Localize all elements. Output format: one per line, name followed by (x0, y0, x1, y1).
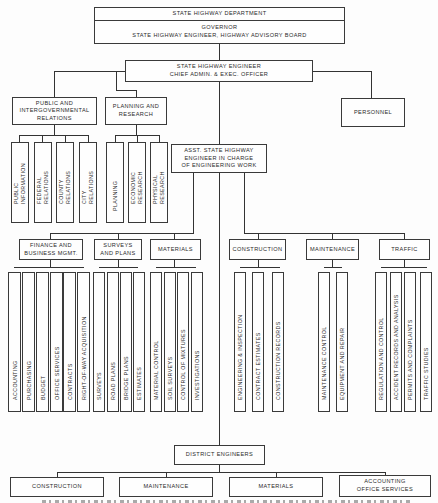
unit-contracts: CONTRACTS (63, 272, 76, 412)
unit-right-of-way: RIGHT-OF-WAY ACQUISITION (77, 272, 90, 412)
unit-city-relations: CITY RELATIONS (79, 142, 97, 223)
unit-label: EQUIPMENT AND REPAIR (339, 328, 346, 401)
connector (244, 233, 405, 234)
personnel-box: PERSONNEL (341, 98, 405, 127)
unit-label: CONTRACTS (66, 364, 73, 401)
unit-accident-records: ACCIDENT RECORDS AND ANALYSIS (390, 272, 402, 412)
unit-label: MATERIAL CONTROL (153, 340, 160, 400)
connector (19, 135, 20, 142)
unit-label: PLANNING (112, 181, 119, 211)
governor-board-box: GOVERNOR STATE HIGHWAY ENGINEER, HIGHWAY… (94, 20, 345, 44)
connector (404, 260, 405, 267)
unit-economic-research: ECONOMIC RESEARCH (128, 142, 146, 223)
connector (324, 267, 342, 268)
connector (156, 267, 196, 268)
state-highway-department-box: STATE HIGHWAY DEPARTMENT (94, 7, 345, 21)
connector (57, 472, 385, 473)
connector (50, 233, 194, 234)
connector (136, 125, 137, 135)
unit-label: ESTIMATES (136, 367, 143, 400)
connector (219, 44, 220, 60)
unit-label: REGULATION AND CONTROL (378, 318, 385, 401)
connector (244, 173, 245, 233)
figure-caption-cutoff (42, 497, 412, 503)
unit-budget: BUDGET (36, 272, 49, 412)
unit-label: ACCOUNTING (11, 361, 18, 401)
unit-public-information: PUBLIC INFORMATION (11, 142, 29, 223)
connector (240, 267, 280, 268)
unit-contract-estimates: CONTRACT ESTIMATES (252, 272, 264, 412)
connector (88, 135, 89, 142)
unit-soil-surveys: SOIL SURVEYS (164, 272, 176, 412)
connector (219, 465, 220, 472)
connector (332, 260, 333, 267)
connector (116, 71, 117, 90)
connector (14, 267, 84, 268)
unit-road-plans: ROAD PLANS (107, 272, 119, 412)
connector (115, 135, 116, 142)
unit-label: MAINTENANCE CONTROL (321, 327, 328, 401)
connector (137, 135, 138, 142)
materials-box: MATERIALS (150, 239, 201, 260)
unit-federal-relations: FEDERAL RELATIONS (34, 142, 52, 223)
connector (99, 267, 138, 268)
unit-label: COUNTY RELATIONS (58, 171, 72, 204)
district-engineers-box: DISTRICT ENGINEERS (174, 445, 265, 465)
maintenance-box: MAINTENANCE (306, 239, 359, 260)
planning-research-box: PLANNING AND RESEARCH (105, 97, 167, 125)
connector (381, 267, 427, 268)
connector (50, 260, 51, 267)
unit-label: TRAFFIC STUDIES (423, 347, 430, 400)
unit-construction-records: CONSTRUCTION RECORDS (272, 272, 284, 412)
connector (54, 71, 125, 72)
unit-label: BRIDGE PLANS (123, 356, 130, 400)
unit-planning: PLANNING (106, 142, 124, 223)
unit-maintenance-control: MAINTENANCE CONTROL (318, 272, 330, 412)
unit-label: OFFICE SERVICES (53, 347, 60, 401)
connector (174, 260, 175, 267)
unit-label: SOIL SURVEYS (167, 357, 174, 400)
connector (118, 260, 119, 267)
unit-surveys: SURVEYS (93, 272, 105, 412)
asst-engineer-box: ASST. STATE HIGHWAY ENGINEER IN CHARGE O… (171, 144, 267, 173)
chief-engineer-box: STATE HIGHWAY ENGINEER CHIEF ADMIN. & EX… (125, 60, 313, 82)
unit-physical-research: PHYSICAL RESEARCH (150, 142, 168, 223)
connector (371, 71, 372, 98)
unit-label: CITY RELATIONS (81, 171, 95, 204)
unit-accounting: ACCOUNTING (8, 272, 21, 412)
unit-label: SURVEYS (96, 372, 103, 400)
district-maintenance-box: MAINTENANCE (119, 477, 213, 497)
unit-label: RIGHT-OF-WAY ACQUISITION (80, 316, 87, 400)
unit-label: INVESTIGATIONS (194, 350, 201, 400)
unit-label: CONTRACT ESTIMATES (255, 332, 262, 400)
district-construction-box: CONSTRUCTION (10, 477, 104, 497)
connector (258, 260, 259, 267)
connector (65, 135, 66, 142)
unit-purchasing: PURCHASING (22, 272, 35, 412)
unit-regulation-control: REGULATION AND CONTROL (375, 272, 387, 412)
connector (19, 135, 89, 136)
connector (193, 173, 194, 233)
unit-label: CONTROL OF MIXTURES (180, 329, 187, 400)
connector (54, 71, 55, 98)
unit-bridge-plans: BRIDGE PLANS (120, 272, 132, 412)
unit-label: PUBLIC INFORMATION (13, 163, 27, 204)
unit-traffic-studies: TRAFFIC STUDIES (420, 272, 432, 412)
connector (116, 90, 136, 91)
unit-equipment-repair: EQUIPMENT AND REPAIR (336, 272, 348, 412)
unit-label: ACCIDENT RECORDS AND ANALYSIS (393, 295, 400, 401)
district-materials-box: MATERIALS (229, 477, 323, 497)
finance-box: FINANCE AND BUSINESS MGMT. (19, 239, 83, 260)
unit-estimates: ESTIMATES (133, 272, 145, 412)
unit-label: BUDGET (39, 376, 46, 400)
connector (219, 82, 220, 460)
unit-county-relations: COUNTY RELATIONS (56, 142, 74, 223)
construction-box: CONSTRUCTION (229, 239, 286, 260)
unit-material-control: MATERIAL CONTROL (150, 272, 162, 412)
unit-label: PURCHASING (25, 361, 32, 400)
traffic-box: TRAFFIC (379, 239, 430, 260)
surveys-box: SURVEYS AND PLANS (94, 239, 142, 260)
unit-label: ENGINEERING & INSPECTION (237, 315, 244, 401)
connector (159, 135, 160, 142)
connector (313, 71, 371, 72)
